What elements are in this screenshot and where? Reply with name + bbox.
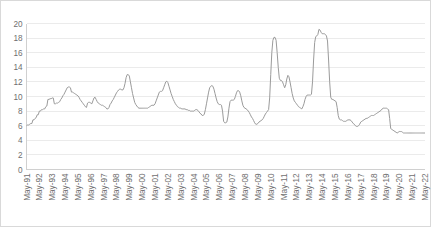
x-tick-label: May-13 <box>305 173 314 201</box>
x-tick-label: May-04 <box>190 173 199 201</box>
x-tick-label: May-07 <box>228 173 237 201</box>
x-tick-label: May-09 <box>254 173 263 201</box>
y-tick-label: 4 <box>18 136 23 145</box>
y-tick-label: 20 <box>13 20 23 29</box>
x-tick-label: May-20 <box>395 173 404 201</box>
y-tick-label: 18 <box>13 34 23 43</box>
x-tick-label: May-10 <box>267 173 276 201</box>
y-tick-label: 16 <box>13 49 23 58</box>
y-tick-label: 12 <box>13 78 23 87</box>
plot-area: 02468101214161820 May-91May-92May-93May-… <box>1 1 431 227</box>
x-tick-label: May-97 <box>100 173 109 201</box>
y-tick-label: 0 <box>18 166 23 175</box>
x-tick-label: May-19 <box>382 173 391 201</box>
x-tick-label: May-16 <box>344 173 353 201</box>
x-tick-label: May-92 <box>35 173 44 201</box>
y-tick-label: 10 <box>13 93 23 102</box>
x-tick-label: May-06 <box>215 173 224 201</box>
x-tick-label: May-12 <box>292 173 301 201</box>
x-tick-label: May-17 <box>357 173 366 201</box>
x-tick-label: May-99 <box>125 173 134 201</box>
x-tick-label: May-02 <box>164 173 173 201</box>
x-tick-label: May-00 <box>138 173 147 201</box>
x-axis-tick-labels: May-91May-92May-93May-94May-95May-96May-… <box>23 173 431 201</box>
x-tick-label: May-98 <box>112 173 121 201</box>
x-tick-label: May-96 <box>87 173 96 201</box>
x-tick-label: May-01 <box>151 173 160 201</box>
chart-container: 02468101214161820 May-91May-92May-93May-… <box>0 0 431 227</box>
line-chart-svg: 02468101214161820 May-91May-92May-93May-… <box>1 1 431 227</box>
x-tick-label: May-22 <box>421 173 430 201</box>
x-tick-label: May-94 <box>61 173 70 201</box>
y-axis-tick-labels: 02468101214161820 <box>13 20 23 175</box>
x-tick-label: May-93 <box>48 173 57 201</box>
data-series-line <box>27 29 426 133</box>
x-tick-label: May-21 <box>408 173 417 201</box>
gridlines-group <box>27 24 426 170</box>
x-tick-label: May-14 <box>318 173 327 201</box>
x-tick-label: May-15 <box>331 173 340 201</box>
x-tick-label: May-03 <box>177 173 186 201</box>
y-tick-label: 2 <box>18 151 23 160</box>
x-tick-label: May-11 <box>280 173 289 200</box>
x-tick-label: May-08 <box>241 173 250 201</box>
y-tick-label: 14 <box>13 63 23 72</box>
y-tick-label: 6 <box>18 122 23 131</box>
y-tick-label: 8 <box>18 107 23 116</box>
x-tick-label: May-91 <box>23 173 32 201</box>
x-tick-label: May-95 <box>74 173 83 201</box>
x-tick-label: May-18 <box>370 173 379 201</box>
x-tick-label: May-05 <box>202 173 211 201</box>
